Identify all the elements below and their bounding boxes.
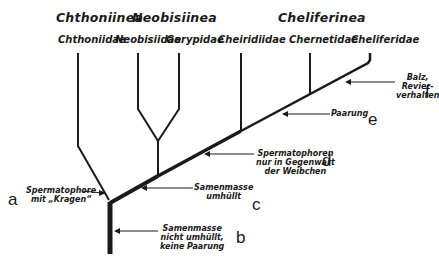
arrowhead-e [282, 111, 288, 117]
note-b-line1: Samenmasse [160, 224, 224, 233]
note-b-line2: nicht umhüllt, [160, 233, 224, 242]
letter-d: d [322, 151, 331, 171]
note-f-line3: verhalten [396, 91, 439, 100]
main-branch-lower [110, 176, 158, 203]
letter-b: b [236, 228, 245, 248]
suborder-chthoniinea: Chthoniinea [56, 10, 143, 25]
arrowhead-f [345, 79, 351, 85]
family-garypidae: Garypidae [166, 34, 224, 45]
branch-chthoniidae [78, 53, 109, 200]
note-e: Paarung [331, 109, 368, 118]
arrowhead-a [99, 190, 106, 196]
letter-f: f [425, 82, 430, 102]
family-chernetidae: Chernetidae [289, 34, 358, 45]
note-f: Balz, Revier- verhalten [396, 73, 439, 100]
note-f-line1: Balz, [396, 73, 439, 82]
note-c-line2: umhüllt [194, 192, 253, 201]
note-a-line1: Spermatophore [26, 186, 96, 195]
letter-e: e [368, 110, 377, 130]
suborder-cheliferinea: Cheliferinea [278, 10, 366, 25]
letter-c: c [252, 195, 261, 215]
note-a-line2: mit „Kragen“ [26, 195, 96, 204]
note-a: Spermatophore mit „Kragen“ [26, 186, 96, 204]
note-b-line3: keine Paarung [160, 242, 224, 251]
note-b: Samenmasse nicht umhüllt, keine Paarung [160, 224, 224, 251]
note-f-line2: Revier- [396, 82, 439, 91]
family-cheiridiidae: Cheiridiidae [218, 34, 286, 45]
branch-garypidae [158, 53, 179, 141]
note-c: Samenmasse umhüllt [194, 183, 253, 201]
letter-a: a [8, 190, 17, 210]
suborder-neobisiinea: Neobisiinea [132, 10, 217, 25]
family-cheliferidae: Cheliferidae [351, 34, 419, 45]
note-e-line1: Paarung [331, 109, 368, 118]
branch-neobisiidae [138, 53, 158, 141]
main-branch-upper [241, 53, 370, 131]
arrowhead-b [114, 228, 120, 234]
note-c-line1: Samenmasse [194, 183, 253, 192]
